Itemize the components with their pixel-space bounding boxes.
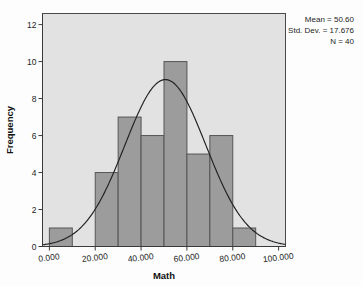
y-axis-tick-label: 0	[32, 242, 37, 252]
x-axis-title: Math	[153, 270, 175, 281]
histogram-figure: 024681012 0.00020.00040.00060.00080.0001…	[0, 0, 363, 286]
y-axis-tick-label: 4	[32, 168, 37, 178]
histogram-bar	[187, 154, 210, 246]
y-axis-title: Frequency	[4, 105, 15, 154]
stat-stddev-label: Std. Dev. = 17.676	[288, 26, 354, 35]
histogram-bar	[141, 136, 164, 247]
histogram-bar	[164, 62, 187, 247]
histogram-bar	[233, 228, 256, 246]
histogram-bar	[210, 136, 233, 247]
histogram-bar	[118, 117, 141, 246]
histogram-bar	[95, 173, 118, 247]
y-axis-tick-label: 10	[27, 57, 37, 67]
histogram-chart: 024681012 0.00020.00040.00060.00080.0001…	[0, 0, 363, 286]
y-axis-tick-label: 12	[27, 20, 37, 30]
stat-mean-label: Mean = 50.60	[305, 15, 355, 24]
y-axis-tick-label: 8	[32, 94, 37, 104]
y-axis-tick-label: 6	[32, 131, 37, 141]
y-axis-tick-label: 2	[32, 205, 37, 215]
stat-n-label: N = 40	[330, 37, 354, 46]
